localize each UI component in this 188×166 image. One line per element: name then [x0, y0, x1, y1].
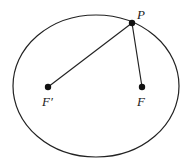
label-p: P — [136, 7, 145, 22]
point-p — [129, 20, 135, 26]
segment-p-f — [132, 23, 142, 87]
segment-p-fprime — [48, 23, 132, 87]
ellipse — [13, 15, 179, 157]
ellipse-diagram: P F′ F — [0, 0, 188, 166]
label-f-prime: F′ — [41, 94, 53, 109]
focus-f — [139, 84, 145, 90]
focus-f-prime — [45, 84, 51, 90]
label-f: F — [136, 94, 146, 109]
